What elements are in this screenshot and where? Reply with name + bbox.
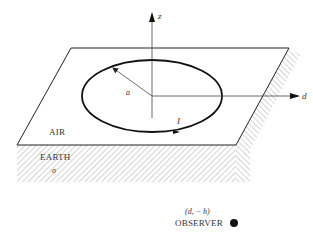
d-axis-arrow-icon <box>290 93 300 99</box>
air-label: AIR <box>49 127 65 137</box>
z-axis-label: z <box>157 11 162 21</box>
loop-over-earth-diagram: z d a I AIR EARTH σ (d, − h) OBSERVER <box>0 0 313 240</box>
d-axis-label: d <box>302 91 307 101</box>
observer-label: OBSERVER <box>175 218 223 228</box>
earth-label: EARTH <box>40 152 71 162</box>
observer-point-icon <box>230 219 238 227</box>
observer-coordinates: (d, − h) <box>185 207 210 216</box>
radius-label: a <box>126 88 130 97</box>
z-axis-arrow-icon <box>149 12 155 22</box>
